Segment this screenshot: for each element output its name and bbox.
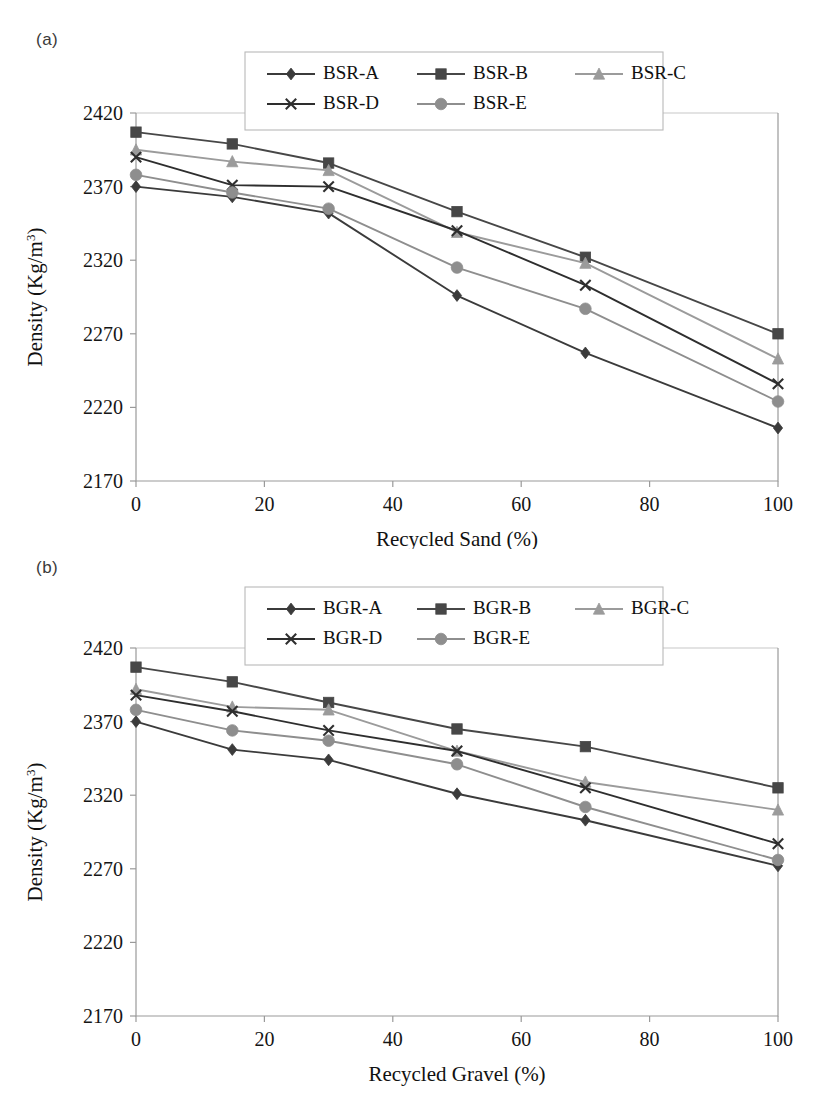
- y-tick-label: 2370: [83, 711, 123, 733]
- legend-box: [245, 52, 663, 130]
- legend-label: BSR-C: [631, 62, 686, 83]
- series-bsr-a: [131, 181, 782, 434]
- data-point-marker: [772, 854, 784, 866]
- y-tick-label: 2420: [83, 102, 123, 124]
- data-point-marker: [451, 262, 463, 274]
- chart-panel-b: (b) 217022202270232023702420020406080100…: [0, 530, 840, 1098]
- x-tick-label: 40: [383, 1028, 403, 1050]
- x-tick-label: 100: [763, 1028, 793, 1050]
- legend-marker: [435, 98, 447, 110]
- data-point-marker: [451, 758, 463, 770]
- data-point-marker: [227, 677, 237, 687]
- legend-label: BSR-A: [323, 62, 379, 83]
- x-tick-label: 0: [131, 1028, 141, 1050]
- legend-label: BSR-E: [473, 92, 527, 113]
- plot-area-b: 217022202270232023702420020406080100Recy…: [0, 530, 840, 1098]
- data-point-marker: [227, 725, 239, 737]
- chart-svg-b: 217022202270232023702420020406080100Recy…: [0, 530, 840, 1098]
- data-point-marker: [452, 788, 461, 800]
- data-point-marker: [581, 347, 590, 359]
- x-tick-label: 40: [383, 493, 403, 515]
- series-bsr-c: [130, 144, 783, 364]
- x-tick-label: 20: [254, 1028, 274, 1050]
- data-point-marker: [580, 280, 590, 290]
- y-axis-title: Density (Kg/m3): [23, 763, 47, 902]
- legend-box: [245, 587, 663, 665]
- data-point-marker: [323, 203, 335, 215]
- data-point-marker: [130, 169, 142, 181]
- y-tick-label: 2170: [83, 470, 123, 492]
- data-point-marker: [773, 422, 782, 434]
- y-tick-label: 2220: [83, 396, 123, 418]
- chart-svg-a: 217022202270232023702420020406080100Recy…: [0, 0, 840, 549]
- data-point-marker: [772, 396, 784, 408]
- data-point-marker: [773, 783, 783, 793]
- data-point-marker: [131, 716, 140, 728]
- y-tick-label: 2270: [83, 858, 123, 880]
- data-point-marker: [130, 704, 142, 716]
- series-line: [136, 150, 778, 359]
- x-tick-label: 100: [763, 493, 793, 515]
- data-point-marker: [452, 290, 461, 302]
- y-tick-label: 2170: [83, 1005, 123, 1027]
- y-tick-label: 2220: [83, 931, 123, 953]
- series-bgr-a: [131, 716, 782, 872]
- x-tick-label: 60: [511, 1028, 531, 1050]
- data-point-marker: [452, 724, 462, 734]
- series-bsr-e: [130, 169, 784, 407]
- data-point-marker: [130, 683, 141, 694]
- chart-legend: BGR-ABGR-BBGR-CBGR-DBGR-E: [245, 587, 689, 665]
- series-line: [136, 187, 778, 428]
- legend-label: BGR-A: [323, 597, 382, 618]
- legend-marker: [436, 604, 446, 614]
- y-tick-label: 2370: [83, 176, 123, 198]
- series-group: [130, 127, 784, 434]
- x-tick-label: 0: [131, 493, 141, 515]
- data-point-marker: [131, 662, 141, 672]
- y-tick-label: 2320: [83, 249, 123, 271]
- legend-label: BGR-D: [323, 627, 382, 648]
- data-point-marker: [580, 801, 592, 813]
- legend-marker: [435, 633, 447, 645]
- plot-area-a: 217022202270232023702420020406080100Recy…: [0, 0, 840, 549]
- y-tick-label: 2270: [83, 323, 123, 345]
- data-point-marker: [773, 329, 783, 339]
- data-point-marker: [227, 187, 239, 199]
- x-tick-label: 20: [254, 493, 274, 515]
- x-tick-label: 60: [511, 493, 531, 515]
- y-axis-title: Density (Kg/m3): [23, 228, 47, 367]
- legend-marker: [436, 69, 446, 79]
- y-axis-ticks: 217022202270232023702420: [83, 637, 136, 1027]
- x-axis-title: Recycled Gravel (%): [368, 1062, 545, 1086]
- chart-legend: BSR-ABSR-BBSR-CBSR-DBSR-E: [245, 52, 686, 130]
- series-group: [130, 662, 784, 872]
- x-tick-label: 80: [640, 1028, 660, 1050]
- legend-label: BSR-D: [323, 92, 379, 113]
- x-axis-ticks: 020406080100: [131, 481, 793, 515]
- chart-panel-a: (a) 217022202270232023702420020406080100…: [0, 0, 840, 549]
- data-point-marker: [580, 741, 590, 751]
- y-tick-label: 2320: [83, 784, 123, 806]
- data-point-marker: [131, 181, 140, 193]
- legend-label: BGR-C: [631, 597, 689, 618]
- y-axis-ticks: 217022202270232023702420: [83, 102, 136, 492]
- legend-label: BGR-E: [473, 627, 530, 648]
- y-tick-label: 2420: [83, 637, 123, 659]
- x-axis-ticks: 020406080100: [131, 1016, 793, 1050]
- data-point-marker: [580, 303, 592, 315]
- data-point-marker: [324, 754, 333, 766]
- data-point-marker: [323, 735, 335, 747]
- legend-label: BSR-B: [473, 62, 528, 83]
- data-point-marker: [227, 139, 237, 149]
- x-tick-label: 80: [640, 493, 660, 515]
- data-point-marker: [452, 206, 462, 216]
- data-point-marker: [228, 744, 237, 756]
- data-point-marker: [581, 814, 590, 826]
- data-point-marker: [772, 353, 783, 364]
- legend-label: BGR-B: [473, 597, 531, 618]
- data-point-marker: [131, 127, 141, 137]
